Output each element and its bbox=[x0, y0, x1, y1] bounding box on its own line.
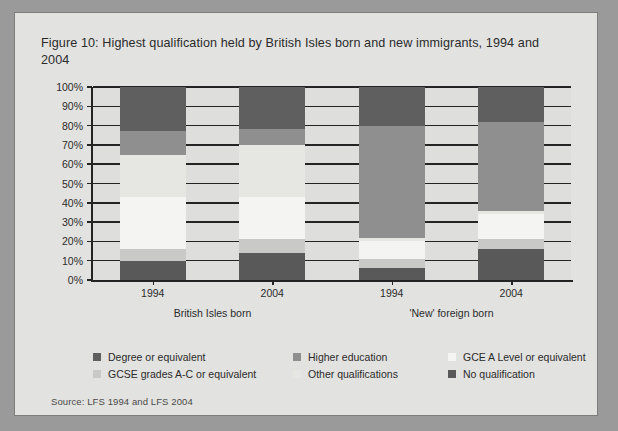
x-axis-tick-label: 1994 bbox=[141, 287, 164, 299]
x-axis-tick-mark bbox=[511, 280, 513, 285]
legend-label: GCSE grades A-C or equivalent bbox=[108, 368, 256, 380]
y-axis-tick-label: 100% bbox=[56, 81, 83, 93]
bar-segment[interactable] bbox=[478, 214, 544, 239]
bar-segment[interactable] bbox=[359, 238, 425, 242]
legend-swatch bbox=[448, 353, 456, 361]
bar-segment[interactable] bbox=[239, 253, 305, 280]
bar-segment[interactable] bbox=[478, 239, 544, 249]
x-axis-line bbox=[91, 280, 573, 282]
y-axis-tick-mark bbox=[87, 183, 92, 185]
source-note: Source: LFS 1994 and LFS 2004 bbox=[51, 396, 193, 407]
x-axis-group-label: British Isles born bbox=[174, 307, 252, 319]
bar-segment[interactable] bbox=[120, 155, 186, 197]
bar-segment[interactable] bbox=[239, 197, 305, 239]
legend-item[interactable]: Higher education bbox=[293, 351, 387, 363]
y-axis-tick-labels: 0%10%20%30%40%50%60%70%80%90%100% bbox=[41, 79, 89, 279]
bar-segment[interactable] bbox=[120, 197, 186, 249]
x-axis-tick-mark bbox=[392, 280, 394, 285]
stacked-bar[interactable] bbox=[478, 87, 544, 280]
bar-segment[interactable] bbox=[478, 122, 544, 211]
legend-swatch bbox=[448, 370, 456, 378]
x-axis-tick-label: 2004 bbox=[261, 287, 284, 299]
x-axis-tick-label: 2004 bbox=[500, 287, 523, 299]
bar-segment[interactable] bbox=[239, 239, 305, 253]
legend-item[interactable]: No qualification bbox=[448, 368, 535, 380]
bar-segment[interactable] bbox=[120, 249, 186, 261]
x-axis-tick-label: 1994 bbox=[380, 287, 403, 299]
y-axis-tick-label: 80% bbox=[62, 120, 83, 132]
y-axis-tick-label: 50% bbox=[62, 178, 83, 190]
y-axis-tick-label: 40% bbox=[62, 197, 83, 209]
legend-label: Higher education bbox=[308, 351, 387, 363]
legend-label: GCE A Level or equivalent bbox=[463, 351, 586, 363]
y-axis-tick-label: 0% bbox=[68, 274, 83, 286]
y-axis-tick-mark bbox=[87, 241, 92, 243]
x-axis-tick-mark bbox=[272, 280, 274, 285]
y-axis-tick-mark bbox=[87, 86, 92, 88]
bar-segment[interactable] bbox=[239, 87, 305, 129]
y-axis-tick-mark bbox=[87, 106, 92, 108]
bar-segment[interactable] bbox=[478, 211, 544, 215]
x-axis-group-label: 'New' foreign born bbox=[410, 307, 494, 319]
legend-label: Degree or equivalent bbox=[108, 351, 205, 363]
y-axis-tick-label: 60% bbox=[62, 158, 83, 170]
bar-segment[interactable] bbox=[120, 87, 186, 131]
bar-segment[interactable] bbox=[359, 259, 425, 269]
y-axis-tick-label: 70% bbox=[62, 139, 83, 151]
y-axis-tick-label: 20% bbox=[62, 235, 83, 247]
x-axis-labels: 1994200419942004British Isles born'New' … bbox=[93, 287, 571, 331]
legend-item[interactable]: GCE A Level or equivalent bbox=[448, 351, 586, 363]
bar-segment[interactable] bbox=[478, 249, 544, 280]
legend-label: No qualification bbox=[463, 368, 535, 380]
bar-segment[interactable] bbox=[239, 129, 305, 144]
legend-item[interactable]: Other qualifications bbox=[293, 368, 398, 380]
y-axis-tick-mark bbox=[87, 125, 92, 127]
y-axis-tick-mark bbox=[87, 163, 92, 165]
legend-swatch bbox=[93, 370, 101, 378]
chart-legend: Degree or equivalentHigher educationGCE … bbox=[93, 351, 593, 387]
bar-segment[interactable] bbox=[359, 268, 425, 280]
y-axis-tick-mark bbox=[87, 144, 92, 146]
stacked-bar[interactable] bbox=[239, 87, 305, 280]
plot-region bbox=[93, 87, 571, 280]
bar-segment[interactable] bbox=[120, 131, 186, 154]
bar-segment[interactable] bbox=[478, 87, 544, 122]
chart-area: 0%10%20%30%40%50%60%70%80%90%100% 199420… bbox=[41, 79, 581, 309]
x-axis-tick-mark bbox=[153, 280, 155, 285]
y-axis-tick-mark bbox=[87, 202, 92, 204]
bar-segment[interactable] bbox=[359, 126, 425, 238]
y-axis-tick-mark bbox=[87, 221, 92, 223]
y-axis-tick-label: 30% bbox=[62, 216, 83, 228]
legend-item[interactable]: Degree or equivalent bbox=[93, 351, 205, 363]
figure-panel: Figure 10: Highest qualification held by… bbox=[14, 12, 598, 416]
y-axis-tick-mark bbox=[87, 260, 92, 262]
legend-swatch bbox=[93, 353, 101, 361]
bar-segment[interactable] bbox=[120, 261, 186, 280]
stacked-bar[interactable] bbox=[359, 87, 425, 280]
figure-title: Figure 10: Highest qualification held by… bbox=[41, 35, 571, 69]
legend-swatch bbox=[293, 370, 301, 378]
bar-segment[interactable] bbox=[359, 87, 425, 126]
legend-item[interactable]: GCSE grades A-C or equivalent bbox=[93, 368, 256, 380]
legend-label: Other qualifications bbox=[308, 368, 398, 380]
bar-segment[interactable] bbox=[239, 145, 305, 197]
y-axis-tick-label: 90% bbox=[62, 100, 83, 112]
bar-segment[interactable] bbox=[359, 241, 425, 258]
y-axis-tick-mark bbox=[87, 279, 92, 281]
y-axis-tick-label: 10% bbox=[62, 255, 83, 267]
stacked-bar[interactable] bbox=[120, 87, 186, 280]
legend-swatch bbox=[293, 353, 301, 361]
